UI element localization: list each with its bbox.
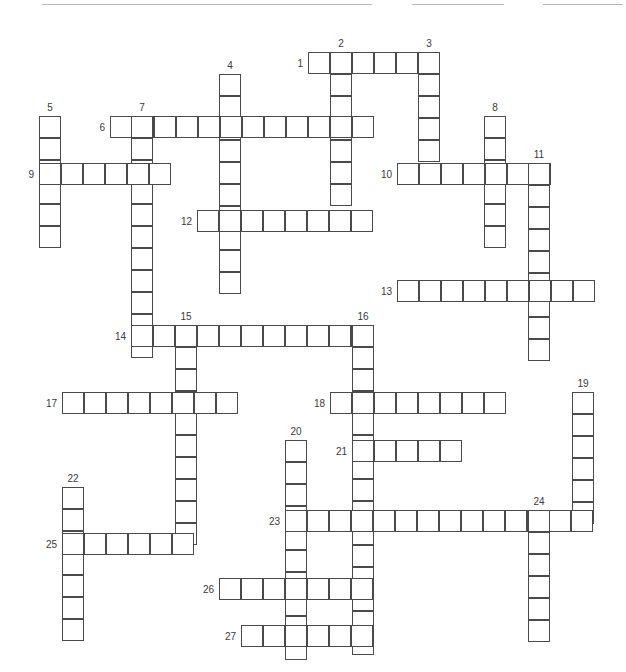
crossword-cell[interactable]	[263, 325, 285, 347]
crossword-cell[interactable]	[131, 248, 153, 270]
crossword-cell[interactable]	[418, 392, 440, 414]
crossword-cell[interactable]	[285, 210, 307, 232]
crossword-cell[interactable]	[216, 392, 238, 414]
crossword-cell[interactable]	[39, 204, 61, 226]
crossword-cell[interactable]	[62, 597, 84, 619]
crossword-cell[interactable]	[374, 392, 396, 414]
crossword-cell[interactable]	[308, 52, 330, 74]
crossword-cell[interactable]	[571, 510, 593, 532]
crossword-cell[interactable]	[83, 163, 105, 185]
crossword-cell[interactable]	[397, 163, 419, 185]
crossword-cell[interactable]	[374, 52, 396, 74]
crossword-cell[interactable]	[483, 510, 505, 532]
crossword-cell[interactable]	[128, 392, 150, 414]
crossword-cell[interactable]	[285, 325, 307, 347]
crossword-cell[interactable]	[175, 435, 197, 457]
crossword-cell[interactable]	[198, 116, 220, 138]
crossword-cell[interactable]	[352, 545, 374, 567]
crossword-cell[interactable]	[440, 440, 462, 462]
crossword-cell[interactable]	[330, 140, 352, 162]
crossword-cell[interactable]	[441, 163, 463, 185]
crossword-cell[interactable]	[219, 184, 241, 206]
crossword-cell[interactable]	[528, 317, 550, 339]
crossword-cell[interactable]	[105, 163, 127, 185]
crossword-cell[interactable]	[263, 210, 285, 232]
crossword-cell[interactable]	[241, 625, 263, 647]
crossword-cell[interactable]	[307, 625, 329, 647]
crossword-cell[interactable]	[285, 578, 307, 600]
crossword-cell[interactable]	[128, 533, 150, 555]
crossword-cell[interactable]	[507, 280, 529, 302]
crossword-cell[interactable]	[175, 347, 197, 369]
crossword-cell[interactable]	[62, 533, 84, 555]
crossword-cell[interactable]	[352, 116, 374, 138]
crossword-cell[interactable]	[396, 392, 418, 414]
crossword-cell[interactable]	[127, 163, 149, 185]
crossword-cell[interactable]	[528, 620, 550, 642]
crossword-cell[interactable]	[286, 116, 308, 138]
crossword-cell[interactable]	[528, 554, 550, 576]
crossword-cell[interactable]	[62, 619, 84, 641]
crossword-cell[interactable]	[110, 116, 132, 138]
crossword-cell[interactable]	[505, 510, 527, 532]
crossword-cell[interactable]	[84, 533, 106, 555]
crossword-cell[interactable]	[352, 347, 374, 369]
crossword-cell[interactable]	[308, 116, 330, 138]
crossword-cell[interactable]	[418, 440, 440, 462]
crossword-cell[interactable]	[62, 509, 84, 531]
crossword-cell[interactable]	[220, 116, 242, 138]
crossword-cell[interactable]	[484, 138, 506, 160]
crossword-cell[interactable]	[484, 204, 506, 226]
crossword-cell[interactable]	[39, 226, 61, 248]
crossword-cell[interactable]	[329, 625, 351, 647]
crossword-cell[interactable]	[440, 392, 462, 414]
crossword-cell[interactable]	[150, 392, 172, 414]
crossword-cell[interactable]	[219, 96, 241, 118]
crossword-cell[interactable]	[285, 625, 307, 647]
crossword-cell[interactable]	[175, 325, 197, 347]
crossword-cell[interactable]	[485, 280, 507, 302]
crossword-cell[interactable]	[351, 210, 373, 232]
crossword-cell[interactable]	[418, 118, 440, 140]
crossword-cell[interactable]	[330, 96, 352, 118]
crossword-cell[interactable]	[131, 182, 153, 204]
crossword-cell[interactable]	[551, 280, 573, 302]
crossword-cell[interactable]	[374, 440, 396, 462]
crossword-cell[interactable]	[463, 163, 485, 185]
crossword-cell[interactable]	[175, 457, 197, 479]
crossword-cell[interactable]	[439, 510, 461, 532]
crossword-cell[interactable]	[572, 414, 594, 436]
crossword-cell[interactable]	[330, 162, 352, 184]
crossword-cell[interactable]	[39, 116, 61, 138]
crossword-cell[interactable]	[219, 140, 241, 162]
crossword-cell[interactable]	[507, 163, 529, 185]
crossword-cell[interactable]	[528, 163, 550, 185]
crossword-cell[interactable]	[419, 280, 441, 302]
crossword-cell[interactable]	[329, 210, 351, 232]
crossword-cell[interactable]	[397, 280, 419, 302]
crossword-cell[interactable]	[461, 510, 483, 532]
crossword-cell[interactable]	[528, 510, 550, 532]
crossword-cell[interactable]	[175, 413, 197, 435]
crossword-cell[interactable]	[197, 325, 219, 347]
crossword-cell[interactable]	[285, 550, 307, 572]
crossword-cell[interactable]	[572, 458, 594, 480]
crossword-cell[interactable]	[351, 625, 373, 647]
crossword-cell[interactable]	[175, 479, 197, 501]
crossword-cell[interactable]	[485, 163, 507, 185]
crossword-cell[interactable]	[307, 210, 329, 232]
crossword-cell[interactable]	[329, 510, 351, 532]
crossword-cell[interactable]	[572, 480, 594, 502]
crossword-cell[interactable]	[573, 280, 595, 302]
crossword-cell[interactable]	[528, 251, 550, 273]
crossword-cell[interactable]	[39, 163, 61, 185]
crossword-cell[interactable]	[219, 578, 241, 600]
crossword-cell[interactable]	[418, 74, 440, 96]
crossword-cell[interactable]	[352, 440, 374, 462]
crossword-cell[interactable]	[131, 204, 153, 226]
crossword-cell[interactable]	[62, 487, 84, 509]
crossword-cell[interactable]	[528, 339, 550, 361]
crossword-cell[interactable]	[241, 325, 263, 347]
crossword-cell[interactable]	[307, 325, 329, 347]
crossword-cell[interactable]	[418, 96, 440, 118]
